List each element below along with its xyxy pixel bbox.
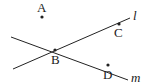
label-line-m: m: [131, 70, 140, 83]
label-a: A: [37, 0, 47, 15]
label-line-l: l: [133, 8, 137, 23]
geometry-diagram: A B C D l m: [0, 0, 151, 83]
line-l: [13, 18, 130, 69]
point-a: [40, 15, 43, 18]
label-b: B: [51, 52, 60, 67]
label-d: D: [103, 67, 112, 82]
label-c: C: [114, 25, 123, 40]
